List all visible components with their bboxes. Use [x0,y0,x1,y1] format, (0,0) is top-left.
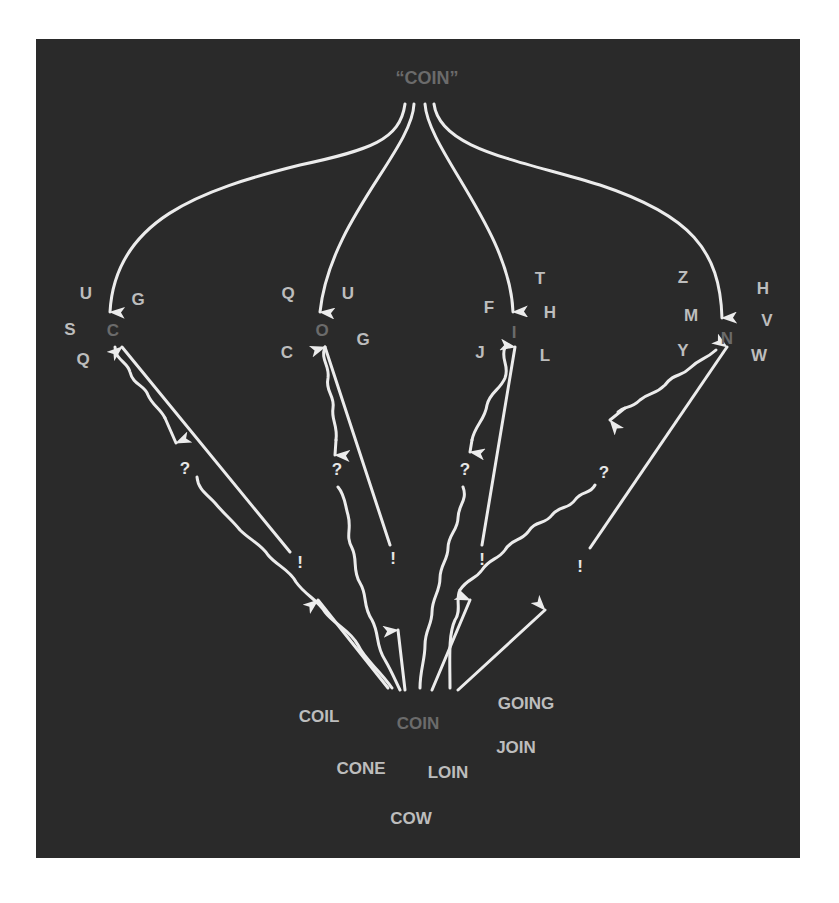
confirm-mark-c: ! [297,554,303,571]
candidate-word: JOIN [496,739,536,756]
candidate-letter: M [684,307,698,324]
candidate-letter: F [484,299,494,316]
wavy-C-to-query [115,347,165,418]
candidate-letter: T [535,270,545,287]
candidate-letter: Q [76,351,89,368]
target-letter-c: C [107,322,119,339]
candidate-letter: L [540,347,550,364]
candidate-letter: C [281,344,293,361]
confirm-mark-i: ! [479,551,485,568]
candidate-letter: U [80,285,92,302]
candidate-word: CONE [336,760,385,777]
candidate-letter: U [342,285,354,302]
straight-hub-to-O-lower [398,630,405,690]
query-mark-c: ? [180,460,190,477]
wavy-N-to-query [618,350,716,412]
hub-word: COIN [397,715,440,732]
candidate-word: COIL [299,708,340,725]
candidate-letter: G [356,331,369,348]
target-letter-n: N [721,330,733,347]
query-mark-i: ? [460,461,470,478]
query-mark-o: ? [332,461,342,478]
candidate-word: LOIN [428,764,469,781]
candidate-letter: Z [678,269,688,286]
straight-hub-to-C-upper [122,347,290,552]
target-letter-o: O [315,322,328,339]
arrow-network [0,0,839,903]
candidate-letter: V [761,312,772,329]
candidate-letter: S [64,321,75,338]
arrow-to-I [425,104,513,312]
candidate-letter: J [475,344,484,361]
candidate-letter: G [131,291,144,308]
candidate-letter: Y [677,342,688,359]
wavy-query-to-hub-N [450,485,595,688]
candidate-letter: H [757,280,769,297]
candidate-letter: W [751,347,767,364]
query-mark-n: ? [599,464,609,481]
straight-hub-to-I-upper [482,347,515,545]
wavy-query-to-hub-I [420,487,464,688]
straight-hub-to-N-upper [590,347,727,548]
candidate-word: GOING [498,695,555,712]
candidate-letter: H [544,304,556,321]
candidate-letter: Q [281,285,294,302]
straight-hub-to-N-lower [458,610,545,690]
confirm-mark-n: ! [577,558,583,575]
target-letter-i: I [512,324,517,341]
title-word: “COIN” [396,69,459,87]
arrow-to-O [320,104,414,312]
confirm-mark-o: ! [390,550,396,567]
candidate-word: COW [390,810,432,827]
